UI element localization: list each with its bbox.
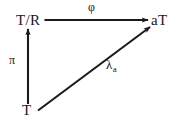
node-label-t: T	[22, 103, 31, 118]
edge-lambda-a-arrow	[38, 27, 150, 111]
commutative-diagram: T/R aT T φ π λa	[0, 0, 179, 121]
edge-label-pi: π	[9, 54, 15, 66]
edge-label-lambda-a: λa	[106, 58, 117, 74]
lambda-subscript: a	[113, 64, 117, 74]
node-label-at: aT	[151, 13, 167, 28]
edge-label-phi: φ	[88, 1, 95, 13]
lambda-glyph: λ	[106, 57, 112, 72]
node-label-t-over-r: T/R	[16, 13, 40, 28]
